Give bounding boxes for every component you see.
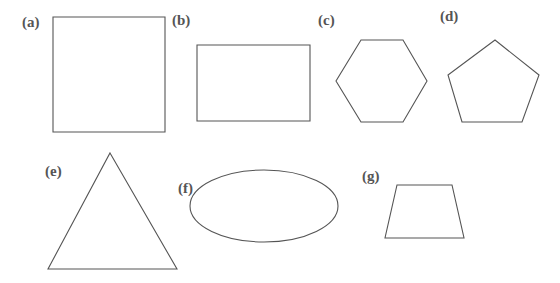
shapes-canvas: [0, 0, 560, 283]
shape-pentagon-d: [448, 40, 539, 122]
shapes-figure: (a) (b) (c) (d) (e) (f) (g): [0, 0, 560, 283]
shape-label-c: (c): [318, 13, 335, 28]
shape-label-b: (b): [172, 13, 190, 28]
shape-label-f: (f): [178, 181, 193, 196]
shape-ellipse-f: [190, 170, 338, 242]
shape-rectangle-b: [197, 45, 310, 121]
shape-label-d: (d): [440, 9, 458, 24]
shape-label-a: (a): [22, 15, 40, 30]
shape-triangle-e: [48, 153, 177, 269]
shape-trapezoid-g: [385, 185, 464, 238]
shape-label-e: (e): [45, 164, 62, 179]
shape-hexagon-c: [336, 40, 427, 122]
shape-square-a: [53, 17, 165, 132]
shape-label-g: (g): [362, 169, 380, 184]
